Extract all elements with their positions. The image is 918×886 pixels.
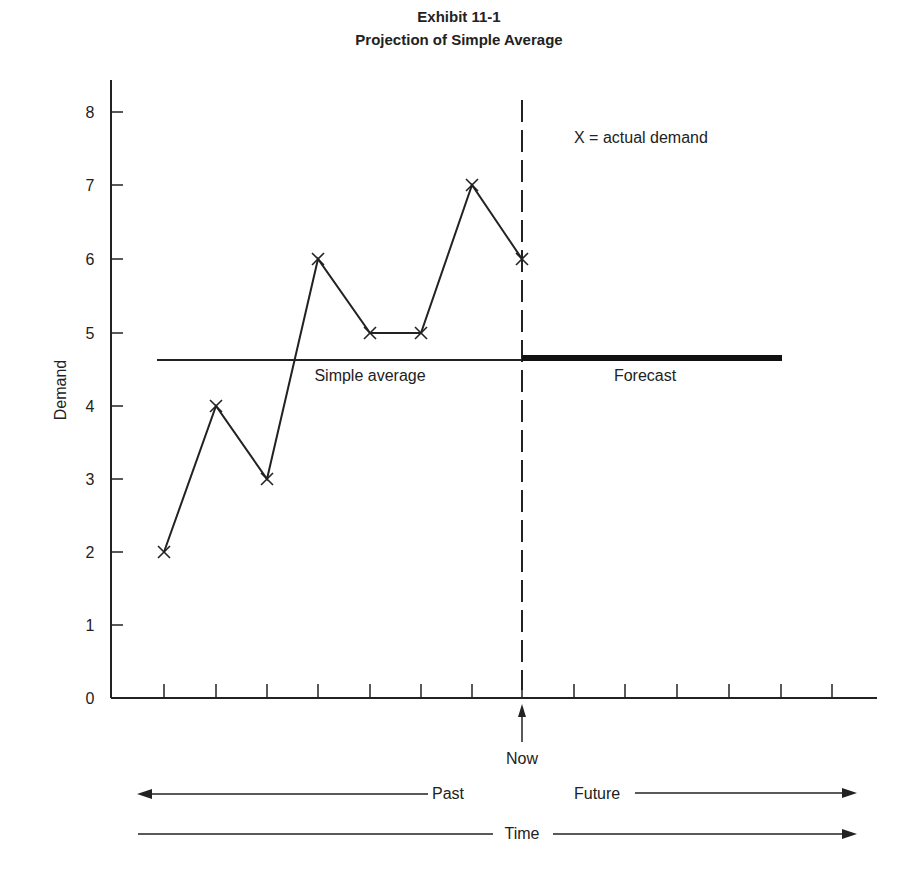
- time-arrow-icon: [138, 829, 857, 839]
- y-tick-label: 3: [86, 471, 95, 488]
- x-marker-icon: [158, 546, 170, 558]
- future-label: Future: [574, 785, 620, 802]
- x-marker-icon: [466, 179, 478, 191]
- y-tick-label: 2: [86, 544, 95, 561]
- now-arrow-icon: [518, 704, 526, 742]
- y-tick-label: 6: [86, 251, 95, 268]
- y-tick-label: 7: [86, 177, 95, 194]
- past-label: Past: [432, 785, 465, 802]
- y-ticks: [111, 112, 123, 625]
- y-tick-label: 0: [86, 690, 95, 707]
- legend-actual-demand: X = actual demand: [574, 129, 708, 146]
- y-tick-labels: 0 1 2 3 4 5 6 7 8: [86, 104, 95, 707]
- x-ticks: [164, 684, 832, 698]
- future-arrow-icon: [635, 788, 857, 798]
- time-label: Time: [505, 825, 540, 842]
- y-tick-label: 1: [86, 617, 95, 634]
- x-marker-icon: [210, 400, 222, 412]
- y-tick-label: 4: [86, 398, 95, 415]
- simple-average-label: Simple average: [314, 367, 425, 384]
- forecast-label: Forecast: [614, 367, 677, 384]
- y-axis-label: Demand: [52, 360, 69, 420]
- now-label: Now: [506, 750, 538, 767]
- chart-canvas: 0 1 2 3 4 5 6 7 8 Demand: [0, 0, 918, 886]
- past-arrow-icon: [137, 789, 428, 799]
- y-tick-label: 5: [86, 325, 95, 342]
- y-tick-label: 8: [86, 104, 95, 121]
